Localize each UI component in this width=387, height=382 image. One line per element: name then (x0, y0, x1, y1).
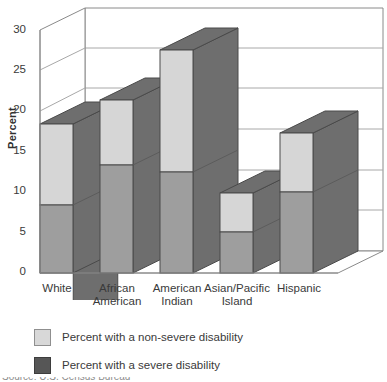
bar-segment-nonsevere-white (40, 124, 73, 205)
chart-container: Percent 0 5 10 15 20 25 30 (0, 0, 387, 382)
x-category-label-asian-pacific-island-line2: Island (191, 295, 283, 308)
legend-label-severe: Percent with a severe disability (62, 359, 220, 371)
legend-swatch-nonsevere-icon (34, 329, 51, 346)
bar-segment-severe-white (40, 205, 73, 273)
bar-segment-severe-asian-pacific-island (220, 232, 253, 273)
x-category-label-hispanic-line1: Hispanic (253, 282, 345, 295)
source-note-clipped: Source: U.S. Census Bureau (0, 377, 387, 382)
source-note-text: Source: U.S. Census Bureau (2, 377, 130, 382)
legend-item-severe: Percent with a severe disability (34, 356, 220, 374)
x-category-label-hispanic: Hispanic (253, 282, 345, 295)
bar-group-hispanic (280, 111, 358, 273)
bar-segment-severe-african-american (100, 165, 133, 273)
legend-swatch-severe-icon (34, 357, 51, 374)
bar-segment-severe-american-indian (160, 172, 193, 273)
bar-segment-nonsevere-american-indian (160, 50, 193, 172)
bar-segment-nonsevere-hispanic (280, 133, 313, 192)
legend-item-nonsevere: Percent with a non-severe disability (34, 328, 243, 346)
legend-label-nonsevere: Percent with a non-severe disability (62, 331, 243, 343)
bar-segment-nonsevere-asian-pacific-island (220, 193, 253, 232)
bar-segment-nonsevere-african-american (100, 100, 133, 165)
bar-segment-severe-hispanic (280, 192, 313, 273)
plot-area (0, 0, 387, 300)
